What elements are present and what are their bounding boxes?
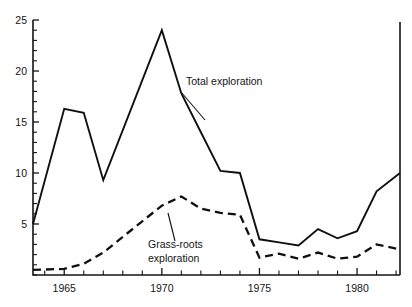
series-grass-roots-exploration: [33, 196, 400, 269]
y-tick-label-15: 15: [15, 116, 27, 128]
annotation-label-1: Grass-roots: [148, 238, 203, 250]
y-axis-tick-labels: 510152025: [15, 14, 27, 230]
x-tick-label-1980: 1980: [345, 282, 369, 294]
x-axis-tick-labels: 1965197019751980: [53, 282, 369, 294]
chart-canvas: 510152025 1965197019751980 Total explora…: [0, 0, 412, 307]
y-tick-label-10: 10: [15, 167, 27, 179]
y-axis-ticks: [33, 20, 39, 275]
axis-lines: [33, 20, 400, 275]
annotation-leader-1: [168, 213, 175, 241]
plot-axes: 510152025 1965197019751980: [15, 14, 400, 294]
plot-series: [33, 30, 400, 270]
y-tick-label-25: 25: [15, 14, 27, 26]
x-tick-label-1965: 1965: [53, 282, 77, 294]
annotation-label-0: Total exploration: [186, 75, 263, 87]
x-axis-ticks: [45, 268, 396, 275]
y-tick-label-20: 20: [15, 65, 27, 77]
series-annotations: Total explorationGrass-rootsexploration: [148, 75, 263, 264]
exploration-line-chart: 510152025 1965197019751980 Total explora…: [0, 0, 412, 307]
annotation-label-2: exploration: [148, 252, 200, 264]
y-tick-label-5: 5: [21, 218, 27, 230]
x-tick-label-1975: 1975: [248, 282, 272, 294]
x-tick-label-1970: 1970: [150, 282, 174, 294]
